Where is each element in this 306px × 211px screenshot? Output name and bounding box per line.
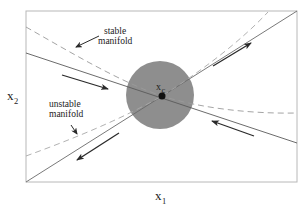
phase-portrait-diagram: xc stable manifold unstable manifold x1 … bbox=[0, 0, 306, 211]
unstable-manifold-label-line1: unstable bbox=[49, 99, 81, 109]
unstable-manifold-label-line2: manifold bbox=[49, 109, 84, 119]
y-axis-label: x2 bbox=[7, 88, 18, 106]
stable-manifold-label-line2: manifold bbox=[98, 36, 133, 46]
x-axis-label: x1 bbox=[155, 188, 166, 206]
stable-manifold-label-line1: stable bbox=[104, 26, 126, 36]
